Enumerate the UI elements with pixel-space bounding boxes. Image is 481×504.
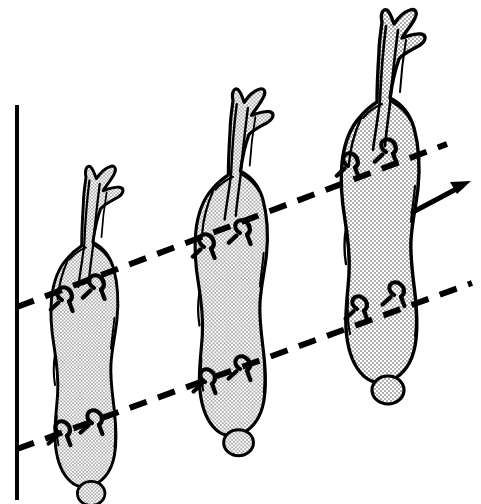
specimen-3 (341, 9, 425, 404)
specimen-2 (195, 89, 273, 456)
figure-canvas (0, 0, 481, 504)
direction-arrow (413, 181, 471, 212)
specimen-1 (51, 166, 123, 504)
diagram-svg (0, 0, 481, 504)
